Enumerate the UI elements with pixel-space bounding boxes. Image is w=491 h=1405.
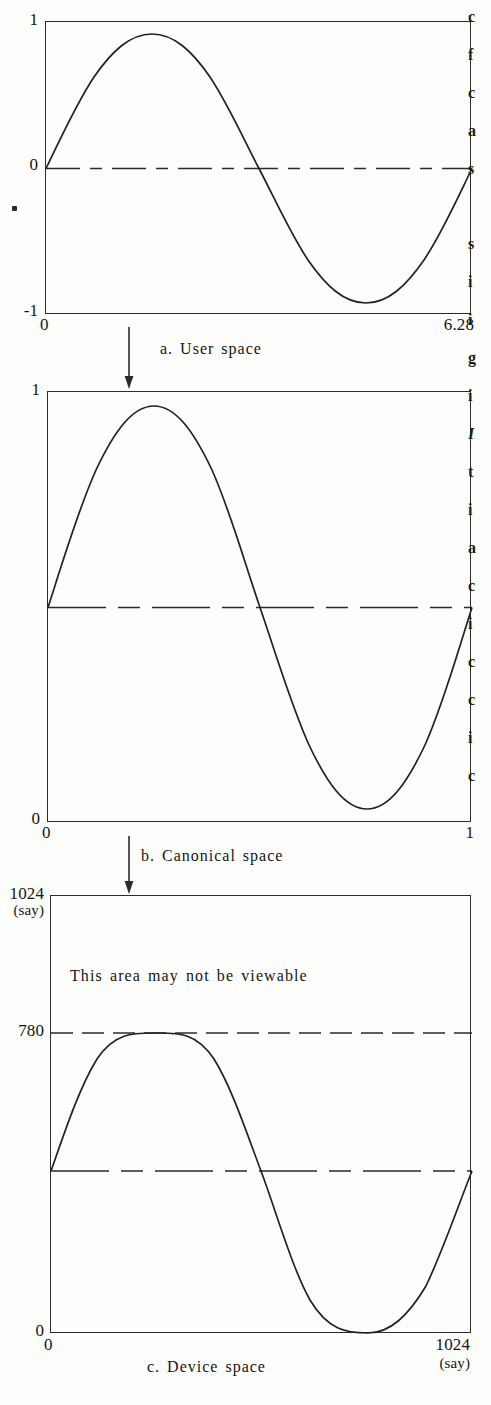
bleed-fragment: c: [468, 653, 475, 671]
chart-canonical-space-frame: [47, 391, 471, 822]
chart-canonical-space-plot: [48, 392, 472, 823]
bleed-fragment: I: [468, 425, 474, 443]
chart-device-space-caption: c. Device space: [147, 1358, 266, 1376]
bleed-fragment: f: [468, 46, 473, 64]
canonical-space-y-top-label: 1: [10, 381, 40, 399]
facing-page-text-bleed: c f c a s s i i g i I t i a c i c c i c: [465, 0, 491, 1405]
bleed-fragment: a: [468, 122, 476, 140]
bleed-fragment: c: [468, 8, 475, 26]
device-space-x-left-label: 0: [44, 1336, 53, 1354]
device-space-y-mid-label: 780: [0, 1022, 44, 1040]
user-space-y-top-label: 1: [8, 11, 38, 29]
canonical-space-x-left-label: 0: [42, 824, 51, 842]
bleed-fragment: g: [468, 349, 476, 367]
bleed-fragment: s: [468, 160, 474, 178]
chart-device-space-plot: [51, 896, 472, 1334]
bleed-fragment: s: [468, 235, 474, 253]
device-space-y-top-sublabel: (say): [0, 903, 44, 919]
device-space-viewable-note: This area may not be viewable: [70, 967, 308, 985]
bleed-fragment: t: [468, 463, 473, 481]
bleed-fragment: a: [468, 539, 476, 557]
bleed-fragment: c: [468, 691, 475, 709]
flow-arrow-user-to-canonical: [122, 327, 136, 389]
device-space-y-bottom-label: 0: [10, 1322, 44, 1340]
scan-speck-artifact: [12, 206, 17, 211]
bleed-fragment: i: [468, 387, 472, 405]
chart-canonical-space-caption: b. Canonical space: [141, 847, 283, 865]
user-space-x-left-label: 0: [40, 316, 49, 334]
chart-user-space-plot: [46, 22, 472, 315]
chart-user-space-caption: a. User space: [160, 340, 262, 358]
figure-page: 1 0 -1 0 6.28 a. User space 1 0 0 1 b. C…: [0, 0, 491, 1405]
bleed-fragment: i: [468, 311, 472, 329]
sine-curve-device-space: [51, 1033, 472, 1333]
user-space-y-bottom-label: -1: [2, 302, 38, 320]
bleed-fragment: c: [468, 577, 475, 595]
device-space-x-right-label: 1024: [412, 1336, 470, 1354]
bleed-fragment: i: [468, 729, 472, 747]
bleed-fragment: c: [468, 84, 475, 102]
flow-arrow-canonical-to-device: [122, 836, 136, 894]
canonical-space-y-bottom-label: 0: [10, 810, 40, 828]
bleed-fragment: c: [468, 767, 475, 785]
device-space-x-right-sublabel: (say): [412, 1356, 470, 1372]
bleed-fragment: i: [468, 501, 472, 519]
bleed-fragment: i: [468, 273, 472, 291]
bleed-fragment: i: [468, 615, 472, 633]
chart-user-space-frame: [45, 21, 471, 314]
user-space-y-mid-label: 0: [8, 156, 38, 174]
device-space-y-top-label: 1024: [0, 885, 44, 903]
chart-device-space-frame: [50, 895, 471, 1333]
